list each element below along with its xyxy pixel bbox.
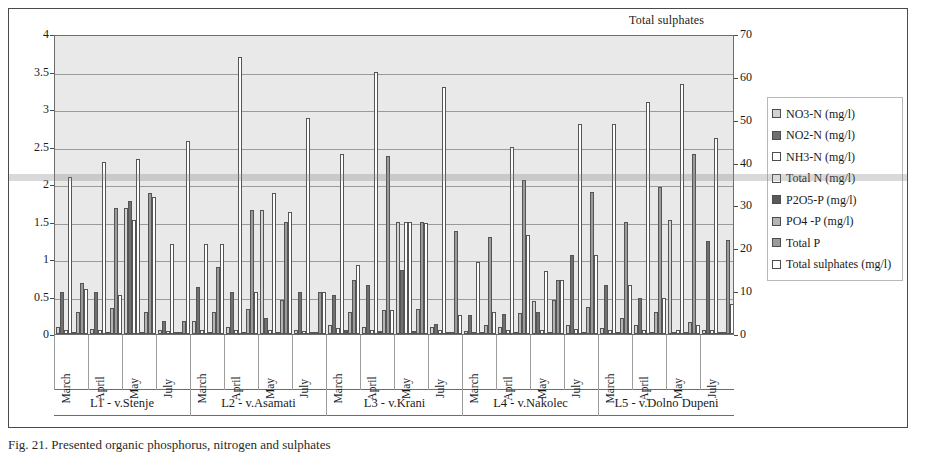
bar <box>692 154 696 334</box>
bar <box>668 220 672 334</box>
y-axis-right-tick-label: 0 <box>734 327 780 342</box>
bar <box>646 102 650 335</box>
y-axis-left-tick-label: 1 <box>9 252 54 267</box>
y-axis-left-tick-label: 3.5 <box>9 65 54 80</box>
legend-item[interactable]: NH3-N (mg/l) <box>772 146 898 168</box>
bar <box>322 292 326 334</box>
y-axis-left-tick-label: 3 <box>9 102 54 117</box>
bar <box>298 292 302 334</box>
x-axis-month-cell: April <box>360 335 394 390</box>
bar <box>68 177 72 335</box>
legend-item[interactable]: P2O5-P (mg/l) <box>772 189 898 211</box>
x-axis-month-cell: May <box>122 335 156 390</box>
y-axis-left-tick-label: 1.5 <box>9 215 54 230</box>
gridline <box>55 261 733 262</box>
legend-item[interactable]: NO3-N (mg/l) <box>772 103 898 125</box>
legend-swatch-icon <box>772 217 781 226</box>
bar <box>680 84 684 335</box>
y-axis-right-tick <box>734 78 738 79</box>
x-axis-month-cell: July <box>292 335 326 390</box>
x-axis-locations: L1 - v.StenjeL2 - v.AsamatiL3 - v.KraniL… <box>54 390 734 416</box>
legend-swatch-icon <box>772 174 781 183</box>
x-axis-month-cell: May <box>258 335 292 390</box>
x-axis-month-cell: April <box>88 335 122 390</box>
bar <box>386 156 390 335</box>
x-axis-month-cell: May <box>666 335 700 390</box>
y-axis-left-tick-label: 0 <box>9 327 54 342</box>
legend-swatch-icon <box>772 260 781 269</box>
x-axis-location-label: L4 - v.Nakolec <box>462 390 598 416</box>
legend-item-label: Total P <box>786 237 820 249</box>
x-axis-location-label: L2 - v.Asamati <box>190 390 326 416</box>
figure-caption: Fig. 21. Presented organic phosphorus, n… <box>8 437 331 453</box>
bar <box>544 271 548 334</box>
bar <box>196 287 200 334</box>
legend-swatch-icon <box>772 195 781 204</box>
x-axis-months: MarchAprilMayJulyMarchAprilMayJulyMarchA… <box>54 335 734 390</box>
y-axis-left: 00.511.522.533.54 <box>9 35 54 335</box>
y-axis-right-tick <box>734 164 738 165</box>
bar <box>204 244 208 334</box>
gridline <box>55 149 733 150</box>
bar <box>260 210 264 334</box>
legend-item-label: Total N (mg/l) <box>786 172 855 184</box>
y-axis-right-tick <box>734 206 738 207</box>
x-axis-month-cell: July <box>156 335 190 390</box>
bar <box>458 315 462 334</box>
legend-item[interactable]: PO4 -P (mg/l) <box>772 211 898 233</box>
chart-title: Total sulphates <box>629 13 704 28</box>
x-axis-month-cell: April <box>224 335 258 390</box>
x-axis-month-cell: March <box>326 335 360 390</box>
gridline <box>55 111 733 112</box>
x-axis-location-label: L3 - v.Krani <box>326 390 462 416</box>
x-axis-location-label: L1 - v.Stenje <box>54 390 190 416</box>
bar <box>714 138 718 335</box>
y-axis-right-tick-label: 70 <box>734 27 780 42</box>
bar <box>706 241 710 334</box>
bar <box>594 255 598 334</box>
legend-item-label: NO3-N (mg/l) <box>786 108 855 120</box>
legend-item[interactable]: Total P <box>772 232 898 254</box>
y-axis-right-tick-label: 60 <box>734 70 780 85</box>
x-axis-month-cell: March <box>190 335 224 390</box>
bar <box>84 289 88 334</box>
y-axis-right-tick-label: 10 <box>734 284 780 299</box>
bar <box>288 212 292 334</box>
legend-item[interactable]: Total N (mg/l) <box>772 168 898 190</box>
legend-item-label: Total sulphates (mg/l) <box>786 258 891 270</box>
y-axis-left-tick-label: 2 <box>9 177 54 192</box>
legend-item[interactable]: Total sulphates (mg/l) <box>772 254 898 276</box>
legend-item[interactable]: NO2-N (mg/l) <box>772 125 898 147</box>
x-axis-month-cell: July <box>428 335 462 390</box>
bar <box>696 325 700 334</box>
x-axis-month-cell: May <box>394 335 428 390</box>
bar <box>366 285 370 335</box>
y-axis-left-tick-label: 4 <box>9 27 54 42</box>
bar <box>170 244 174 334</box>
bar <box>476 262 480 334</box>
y-axis-left-tick-label: 2.5 <box>9 140 54 155</box>
chart-figure-frame: Total sulphates 00.511.522.533.54 010203… <box>8 8 908 428</box>
bar <box>612 124 616 334</box>
bar <box>442 87 446 335</box>
bar <box>306 118 310 334</box>
legend-swatch-icon <box>772 152 781 161</box>
y-axis-left-tick-label: 0.5 <box>9 290 54 305</box>
x-axis-month-cell: March <box>54 335 88 390</box>
bar <box>118 295 122 334</box>
y-axis-right-tick <box>734 292 738 293</box>
bar <box>238 57 242 335</box>
legend-swatch-icon <box>772 238 781 247</box>
plot-area <box>54 35 734 335</box>
bar <box>186 141 190 334</box>
x-axis-month-cell: March <box>462 335 496 390</box>
bar <box>254 292 258 334</box>
x-axis-month-cell: April <box>496 335 530 390</box>
bar <box>60 292 64 334</box>
y-axis-right-tick <box>734 35 738 36</box>
bar <box>492 312 496 334</box>
bar <box>510 147 514 335</box>
bar <box>102 162 106 335</box>
bar <box>374 72 378 335</box>
bar <box>570 255 574 334</box>
